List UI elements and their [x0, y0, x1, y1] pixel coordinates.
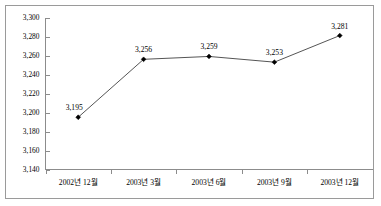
x-axis-tick-labels: 2002년 12월2003년 3월2003년 6월2003년 9월2003년 1…	[59, 177, 359, 187]
x-axis-tick-label: 2003년 9월	[257, 177, 292, 187]
data-point-label: 3,256	[135, 45, 152, 54]
x-axis-tick-label: 2003년 6월	[192, 177, 227, 187]
y-axis-tick-label: 3,260	[23, 51, 40, 60]
x-axis-tick-label: 2002년 12월	[59, 177, 98, 187]
data-point-labels: 3,1953,2563,2593,2533,281	[66, 22, 349, 113]
data-point-label: 3,253	[266, 48, 283, 57]
data-point-label: 3,195	[66, 103, 83, 112]
chart-frame: 3,3003,2803,2603,2403,2203,2003,1803,160…	[5, 5, 374, 199]
x-axis-tick-label: 2003년 12월	[320, 177, 359, 187]
y-axis-tick-label: 3,200	[23, 108, 40, 117]
data-point-marker	[272, 60, 277, 65]
line-chart: 3,3003,2803,2603,2403,2203,2003,1803,160…	[6, 6, 373, 198]
x-axis-tick-label: 2003년 3월	[126, 177, 161, 187]
y-axis-tick-labels: 3,3003,2803,2603,2403,2203,2003,1803,160…	[23, 13, 40, 174]
y-axis-tick-marks	[46, 19, 50, 171]
y-axis-tick-label: 3,280	[23, 32, 40, 41]
data-point-marker	[337, 33, 342, 38]
y-axis-tick-label: 3,240	[23, 70, 40, 79]
y-axis-tick-label: 3,180	[23, 127, 40, 136]
y-axis-tick-label: 3,160	[23, 146, 40, 155]
y-axis-tick-label: 3,300	[23, 13, 40, 22]
data-point-label: 3,259	[200, 42, 217, 51]
y-axis-tick-label: 3,140	[23, 165, 40, 174]
data-point-marker	[207, 54, 212, 59]
x-axis-tick-marks	[47, 170, 374, 174]
y-axis-tick-label: 3,220	[23, 89, 40, 98]
data-point-label: 3,281	[331, 22, 348, 31]
